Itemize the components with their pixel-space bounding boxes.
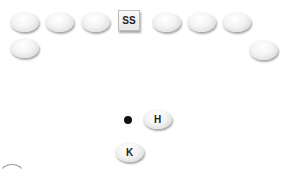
ball-icon	[124, 116, 132, 124]
player-marker	[45, 12, 74, 32]
player-marker	[249, 40, 278, 60]
player-marker	[152, 12, 181, 32]
player-k: K	[115, 142, 144, 162]
player-marker	[222, 12, 251, 32]
player-marker	[10, 12, 39, 32]
player-ss: SS	[118, 10, 140, 31]
player-marker	[187, 12, 216, 32]
player-h: H	[143, 109, 172, 129]
player-marker	[81, 12, 110, 32]
partial-arc	[0, 164, 26, 170]
player-marker	[10, 38, 39, 58]
